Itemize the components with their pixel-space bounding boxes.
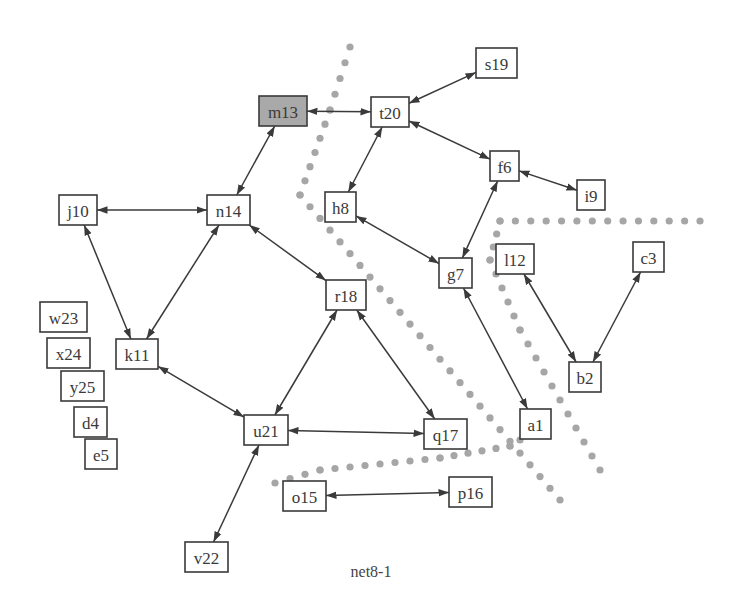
node-label: m13 (268, 103, 298, 122)
node-o15[interactable]: o15 (283, 481, 326, 511)
node-label: n14 (216, 202, 242, 221)
node-label: s19 (485, 55, 509, 74)
node-label: d4 (82, 414, 100, 433)
node-label: y25 (70, 378, 96, 397)
nodes: m13t20s19f6i9j10n14h8g7l12c3r18w23x24k11… (40, 48, 664, 572)
node-j10[interactable]: j10 (59, 195, 97, 225)
node-t20[interactable]: t20 (371, 97, 409, 127)
node-r18[interactable]: r18 (326, 280, 366, 310)
node-label: u21 (253, 422, 279, 441)
node-label: o15 (292, 488, 318, 507)
node-b2[interactable]: b2 (569, 362, 601, 392)
node-k11[interactable]: k11 (116, 339, 158, 369)
node-p16[interactable]: p16 (449, 477, 492, 507)
node-label: g7 (447, 265, 465, 284)
network-diagram: m13t20s19f6i9j10n14h8g7l12c3r18w23x24k11… (0, 0, 743, 609)
node-i9[interactable]: i9 (577, 180, 605, 210)
node-d4[interactable]: d4 (74, 407, 107, 437)
node-label: c3 (640, 249, 656, 268)
edge-m13-t20 (307, 111, 371, 112)
edge-c3-b2 (593, 272, 641, 362)
edge-k11-u21 (158, 366, 244, 417)
edge-t20-s19 (409, 72, 476, 103)
node-label: h8 (332, 199, 349, 218)
edge-u21-v22 (214, 445, 259, 542)
node-l12[interactable]: l12 (496, 244, 534, 274)
edge-j10-k11 (84, 225, 131, 339)
edge-o15-p16 (326, 493, 449, 496)
node-n14[interactable]: n14 (207, 195, 250, 225)
node-v22[interactable]: v22 (185, 542, 228, 572)
edge-n14-r18 (249, 225, 326, 281)
node-e5[interactable]: e5 (85, 439, 117, 469)
node-label: l12 (504, 251, 526, 270)
edge-l12-b2 (524, 274, 576, 362)
node-u21[interactable]: u21 (244, 415, 288, 445)
node-y25[interactable]: y25 (61, 371, 104, 401)
node-a1[interactable]: a1 (520, 409, 551, 439)
edge-r18-u21 (275, 310, 337, 415)
node-q17[interactable]: q17 (424, 419, 467, 449)
cut-lines (271, 43, 703, 503)
node-w23[interactable]: w23 (40, 302, 87, 332)
node-label: v22 (194, 549, 220, 568)
edge-u21-q17 (288, 430, 424, 433)
edge-g7-a1 (463, 288, 527, 409)
node-label: r18 (335, 287, 358, 306)
node-label: w23 (49, 309, 78, 328)
diagram-caption: net8-1 (351, 563, 392, 580)
node-m13[interactable]: m13 (259, 96, 307, 126)
node-f6[interactable]: f6 (490, 151, 519, 181)
edge-m13-n14 (237, 126, 275, 195)
node-s19[interactable]: s19 (476, 48, 517, 78)
node-label: e5 (93, 446, 109, 465)
node-c3[interactable]: c3 (633, 242, 664, 272)
edge-h8-g7 (356, 216, 439, 264)
node-label: x24 (56, 345, 82, 364)
node-label: b2 (577, 369, 594, 388)
node-label: i9 (584, 187, 597, 206)
node-label: q17 (433, 426, 459, 445)
node-h8[interactable]: h8 (325, 192, 356, 222)
node-label: j10 (66, 202, 89, 221)
node-label: a1 (527, 416, 543, 435)
edge-f6-i9 (519, 171, 577, 190)
node-label: f6 (497, 158, 511, 177)
node-label: k11 (125, 346, 150, 365)
node-x24[interactable]: x24 (47, 338, 90, 368)
node-g7[interactable]: g7 (439, 258, 472, 288)
edge-r18-q17 (357, 310, 435, 419)
node-label: t20 (379, 104, 401, 123)
edge-t20-f6 (409, 121, 490, 159)
edge-n14-k11 (147, 225, 219, 339)
node-label: p16 (458, 484, 484, 503)
edge-t20-h8 (348, 127, 382, 192)
